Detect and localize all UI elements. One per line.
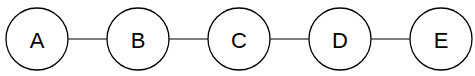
node-label: A	[30, 28, 45, 53]
graph-diagram: ABCDE	[0, 0, 475, 76]
node-label: B	[131, 28, 146, 53]
node-e: E	[410, 8, 472, 70]
node-c: C	[208, 8, 270, 70]
node-label: C	[231, 28, 247, 53]
node-label: E	[434, 28, 449, 53]
node-label: D	[332, 28, 348, 53]
node-a: A	[6, 8, 68, 70]
node-d: D	[309, 8, 371, 70]
node-b: B	[107, 8, 169, 70]
